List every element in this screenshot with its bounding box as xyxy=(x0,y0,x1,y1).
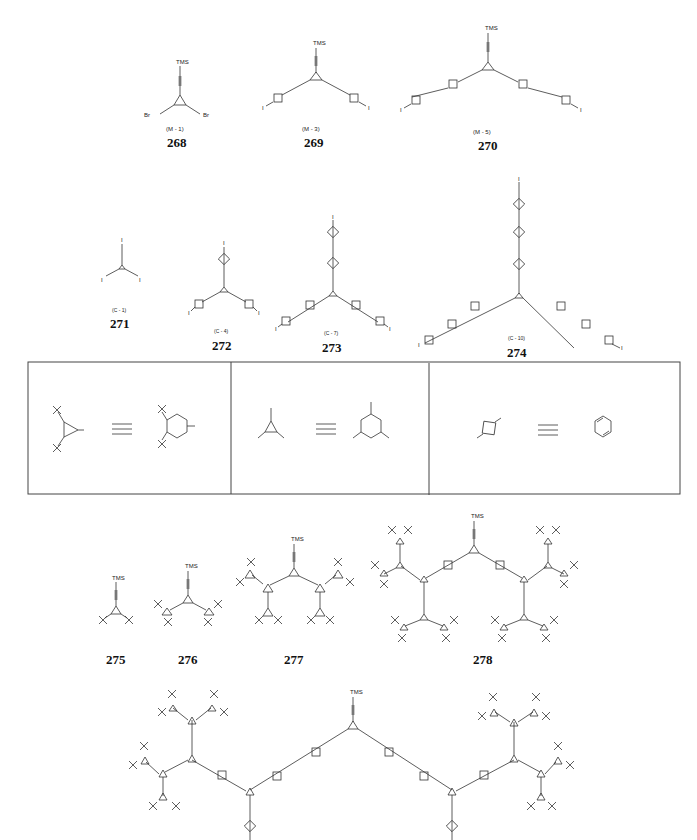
iodo-label: I xyxy=(139,277,141,283)
compound-number: 277 xyxy=(284,652,304,667)
compound-274: I I I (C - 10) 274 xyxy=(418,176,623,360)
compound-code: (M - 1) xyxy=(166,126,184,132)
compound-number: 272 xyxy=(212,338,232,353)
iodo-label: I xyxy=(262,105,264,111)
br-label: Br xyxy=(203,112,209,118)
iodo-label: I xyxy=(418,342,420,348)
compound-code: (C - 7) xyxy=(324,330,339,336)
compound-276: TMS 276 xyxy=(154,563,222,667)
iodo-label: I xyxy=(332,214,334,220)
compound-number: 278 xyxy=(473,652,493,667)
tms-label: TMS xyxy=(350,689,363,695)
compound-number: 275 xyxy=(106,652,126,667)
iodo-label: I xyxy=(275,326,277,332)
iodo-label: I xyxy=(223,240,225,246)
compound-code: (C - 10) xyxy=(508,335,525,341)
compound-code: (C - 4) xyxy=(214,328,229,334)
compound-277: TMS 277 xyxy=(236,536,354,667)
tms-label: TMS xyxy=(313,40,326,46)
tms-label: TMS xyxy=(185,563,198,569)
iodo-label: I xyxy=(389,326,391,332)
iodo-label: I xyxy=(580,107,582,113)
iodo-label: I xyxy=(400,107,402,113)
compound-number: 273 xyxy=(322,340,342,355)
compound-number: 270 xyxy=(478,138,498,153)
iodo-label: I xyxy=(188,310,190,316)
tms-label: TMS xyxy=(485,25,498,31)
compound-271: I I I (C - 1) 271 xyxy=(101,237,141,331)
iodo-label: I xyxy=(368,105,370,111)
iodo-label: I xyxy=(121,237,123,243)
compound-272: I I I (C - 4) 272 xyxy=(188,240,260,353)
compound-code: (M - 3) xyxy=(302,126,320,132)
br-label: Br xyxy=(144,112,150,118)
compound-269: TMS I I (M - 3) 269 xyxy=(262,40,370,150)
compound-number: 271 xyxy=(110,316,130,331)
compound-number: 269 xyxy=(304,135,324,150)
iodo-label: I xyxy=(621,345,623,351)
legend-panel-triangle xyxy=(258,402,389,438)
tms-label: TMS xyxy=(176,59,189,65)
dendrimer-figure: TMS Br Br (M - 1) 268 TMS I I (M - 3) 26… xyxy=(0,0,697,840)
compound-279: TMS xyxy=(129,689,574,840)
legend-box xyxy=(28,362,680,495)
compound-number: 268 xyxy=(167,135,187,150)
compound-275: TMS 275 xyxy=(99,575,133,667)
iodo-label: I xyxy=(518,176,520,182)
compound-270: TMS I I (M - 5) 270 xyxy=(400,25,582,153)
compound-273: I I I (C - 7) 273 xyxy=(275,214,391,355)
compound-268: TMS Br Br (M - 1) 268 xyxy=(144,59,209,150)
compound-code: (M - 5) xyxy=(473,129,491,135)
tms-label: TMS xyxy=(471,513,484,519)
compound-278: TMS xyxy=(371,513,578,667)
compound-number: 276 xyxy=(178,652,198,667)
tms-label: TMS xyxy=(291,536,304,542)
legend-panel-square xyxy=(477,416,611,438)
legend-panel-tbu xyxy=(53,405,195,452)
iodo-label: I xyxy=(101,277,103,283)
compound-code: (C - 1) xyxy=(112,307,127,313)
tms-label: TMS xyxy=(112,575,125,581)
iodo-label: I xyxy=(258,310,260,316)
compound-number: 274 xyxy=(507,345,527,360)
